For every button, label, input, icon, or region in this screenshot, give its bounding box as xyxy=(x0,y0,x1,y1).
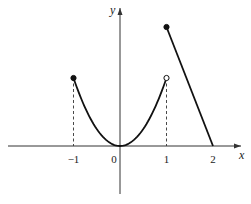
function-graph: xy−1012 xyxy=(0,0,251,204)
series-line xyxy=(167,27,214,146)
x-axis-label: x xyxy=(238,148,245,162)
x-tick-label: −1 xyxy=(68,153,80,165)
filled-endpoint xyxy=(164,24,169,29)
y-axis-arrow-icon xyxy=(118,8,123,15)
x-tick-label: 2 xyxy=(210,153,216,165)
y-axis-label: y xyxy=(109,3,116,17)
filled-endpoint xyxy=(71,75,76,80)
x-tick-label: 0 xyxy=(111,153,117,165)
x-tick-label: 1 xyxy=(164,153,170,165)
open-endpoint xyxy=(164,75,169,80)
